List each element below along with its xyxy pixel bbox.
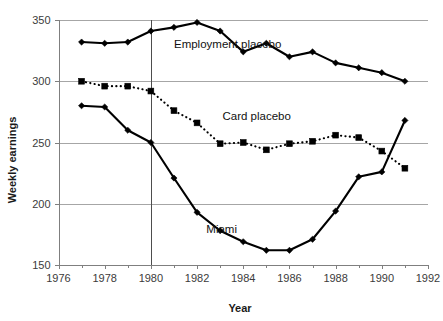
data-point-card-placebo-1978	[102, 83, 108, 89]
data-point-card-placebo-1981	[171, 108, 177, 114]
data-point-card-placebo-1985	[263, 147, 269, 153]
x-tick-label-1976: 1976	[46, 272, 70, 284]
data-point-card-placebo-1984	[240, 140, 246, 146]
y-tick-label-250: 250	[32, 137, 50, 149]
data-point-card-placebo-1983	[217, 141, 223, 147]
data-point-card-placebo-1989	[356, 135, 362, 141]
data-point-card-placebo-1980	[148, 88, 154, 94]
x-tick-label-1992: 1992	[416, 272, 440, 284]
x-tick-label-1982: 1982	[185, 272, 209, 284]
data-point-card-placebo-1982	[194, 120, 200, 126]
x-tick-label-1988: 1988	[323, 272, 347, 284]
x-tick-label-1980: 1980	[139, 272, 163, 284]
data-point-card-placebo-1977	[79, 78, 85, 84]
x-tick-label-1984: 1984	[231, 272, 255, 284]
data-point-card-placebo-1979	[125, 83, 131, 89]
weekly-earnings-line-chart: 150200250300350 197619781980198219841986…	[0, 0, 443, 321]
series-annotation-employment-placebo: Employment placebo	[174, 38, 281, 50]
data-point-card-placebo-1991	[402, 165, 408, 171]
y-tick-label-150: 150	[32, 259, 50, 271]
x-tick-label-1990: 1990	[370, 272, 394, 284]
chart-container: 150200250300350 197619781980198219841986…	[0, 0, 443, 321]
series-annotation-card-placebo: Card placebo	[222, 110, 290, 122]
data-point-card-placebo-1988	[333, 132, 339, 138]
data-point-card-placebo-1986	[287, 141, 293, 147]
x-tick-labels-group: 197619781980198219841986198819901992	[46, 272, 440, 284]
y-axis-title: Weekly earnings	[6, 117, 18, 204]
series-annotation-miami: Miami	[206, 223, 237, 235]
x-tick-label-1986: 1986	[277, 272, 301, 284]
y-tick-label-200: 200	[32, 198, 50, 210]
x-tick-label-1978: 1978	[92, 272, 116, 284]
data-point-card-placebo-1990	[379, 148, 385, 154]
x-axis-title: Year	[228, 302, 252, 314]
y-tick-label-300: 300	[32, 75, 50, 87]
y-tick-label-350: 350	[32, 14, 50, 26]
data-point-card-placebo-1987	[310, 138, 316, 144]
